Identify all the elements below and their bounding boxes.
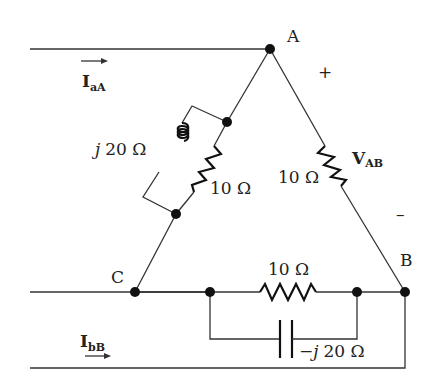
svg-text:IbB: IbB <box>80 331 105 354</box>
node-B <box>400 287 410 297</box>
current-bB: IbB <box>80 331 111 359</box>
junction-CA-upper <box>222 117 232 127</box>
label-inductor-CA: j20 Ω <box>91 139 146 159</box>
resistor-AB <box>318 146 346 186</box>
delta-circuit-diagram: A B C IaA IbB + – 10 Ω VAB j20 Ω 10 Ω 10… <box>0 0 435 389</box>
label-capacitor-BC: −j20 Ω <box>299 341 365 361</box>
label-voltage-AB: VAB <box>351 148 383 170</box>
label-node-B: B <box>400 250 413 270</box>
label-node-A: A <box>286 26 300 46</box>
label-resistor-BC: 10 Ω <box>268 259 309 279</box>
branch-CA <box>135 49 270 292</box>
label-node-C: C <box>111 267 124 287</box>
plus-sign: + <box>318 62 332 82</box>
label-resistor-AB: 10 Ω <box>278 167 319 187</box>
svg-text:IaA: IaA <box>82 71 106 94</box>
inductor-CA <box>178 123 189 141</box>
arrow-right-icon <box>104 353 111 359</box>
junction-BC-right <box>352 287 362 297</box>
label-resistor-CA: 10 Ω <box>210 178 251 198</box>
junction-CA-lower <box>171 209 181 219</box>
resistor-BC <box>260 284 316 300</box>
minus-sign: – <box>396 204 405 224</box>
junction-BC-left <box>205 287 215 297</box>
arrow-right-icon <box>101 58 108 64</box>
node-A <box>265 44 275 54</box>
current-aA: IaA <box>81 58 108 94</box>
node-C <box>130 287 140 297</box>
